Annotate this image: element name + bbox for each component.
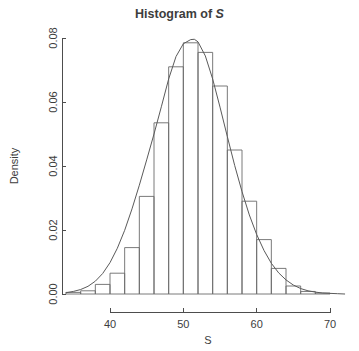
x-axis-title: S <box>204 334 211 346</box>
chart-canvas: Histogram of S 0.000.020.040.060.08 4050… <box>0 0 359 351</box>
x-axis-tick-label: 40 <box>104 318 116 330</box>
x-axis-tick-label: 70 <box>324 318 336 330</box>
y-axis-tick-label: 0.02 <box>47 219 59 240</box>
histogram-plot: Histogram of S 0.000.020.040.060.08 4050… <box>0 0 359 351</box>
y-axis-tick-label: 0.06 <box>47 91 59 112</box>
y-axis-tick-label: 0.00 <box>47 283 59 304</box>
y-axis-title: Density <box>8 147 20 184</box>
x-axis-tick-label: 50 <box>177 318 189 330</box>
y-axis-tick-label: 0.04 <box>47 155 59 176</box>
page-title: Histogram of S <box>135 7 225 21</box>
y-axis-tick-label: 0.08 <box>47 27 59 48</box>
x-axis-tick-label: 60 <box>251 318 263 330</box>
